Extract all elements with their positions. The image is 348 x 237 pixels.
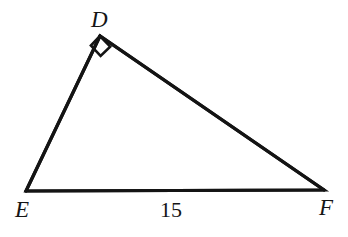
triangle-side-ef (26, 190, 324, 191)
side-length-label-ef: 15 (160, 199, 182, 221)
geometry-figure: D E F 15 (0, 0, 348, 237)
vertex-label-e: E (15, 198, 29, 221)
vertex-label-f: F (319, 196, 333, 219)
vertex-label-d: D (91, 8, 108, 31)
